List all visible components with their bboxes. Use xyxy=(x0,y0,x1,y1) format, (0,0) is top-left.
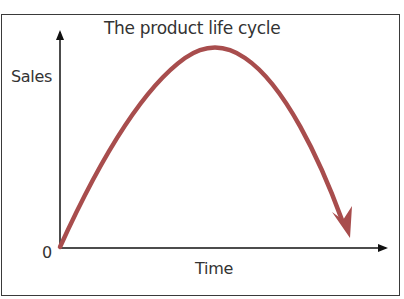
life-cycle-curve xyxy=(60,48,342,248)
diagram-title: The product life cycle xyxy=(104,18,280,38)
curve-arrowhead-icon xyxy=(332,206,352,238)
x-axis-label: Time xyxy=(195,259,233,278)
y-axis-label: Sales xyxy=(11,67,52,86)
origin-label: 0 xyxy=(42,243,52,262)
diagram-canvas xyxy=(0,0,404,299)
